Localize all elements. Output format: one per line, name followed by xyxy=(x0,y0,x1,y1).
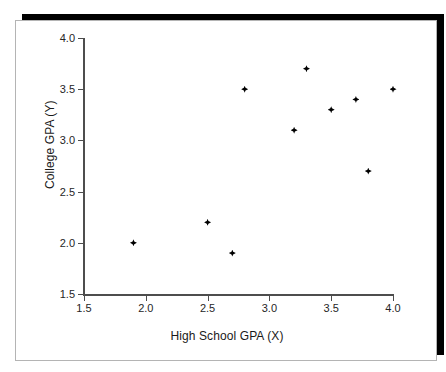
y-tick-mark xyxy=(78,294,84,295)
data-point xyxy=(352,96,359,103)
x-tick-mark xyxy=(331,296,332,301)
x-tick-mark xyxy=(269,296,270,301)
x-tick-label: 1.5 xyxy=(76,302,91,314)
data-point xyxy=(130,239,137,246)
y-tick-mark xyxy=(78,38,84,39)
scatter-plot-figure: 1.52.02.53.03.54.0 1.52.02.53.03.54.0 Co… xyxy=(15,20,437,361)
y-axis-title: College GPA (Y) xyxy=(43,100,57,189)
x-tick-mark xyxy=(84,296,85,301)
x-tick-label: 3.5 xyxy=(324,302,339,314)
x-tick-mark xyxy=(208,296,209,301)
x-tick-label: 2.0 xyxy=(138,302,153,314)
y-tick-label: 3.5 xyxy=(60,83,75,95)
x-tick-mark xyxy=(393,296,394,301)
y-tick-mark xyxy=(78,140,84,141)
data-point xyxy=(390,86,397,93)
y-tick-label: 3.0 xyxy=(60,134,75,146)
x-axis-title: High School GPA (X) xyxy=(16,329,438,343)
x-tick-label: 4.0 xyxy=(385,302,400,314)
y-tick-label: 1.5 xyxy=(60,288,75,300)
data-point xyxy=(204,219,211,226)
plot-area: 1.52.02.53.03.54.0 1.52.02.53.03.54.0 xyxy=(84,38,393,294)
x-axis-line xyxy=(83,294,394,296)
data-point xyxy=(328,106,335,113)
x-tick-mark xyxy=(146,296,147,301)
y-tick-mark xyxy=(78,243,84,244)
y-tick-label: 2.5 xyxy=(60,186,75,198)
data-point xyxy=(229,250,236,257)
y-tick-mark xyxy=(78,89,84,90)
data-point xyxy=(303,65,310,72)
y-tick-mark xyxy=(78,192,84,193)
y-tick-label: 2.0 xyxy=(60,237,75,249)
data-point xyxy=(365,168,372,175)
x-tick-label: 3.0 xyxy=(262,302,277,314)
x-tick-label: 2.5 xyxy=(200,302,215,314)
figure-wrapper: 1.52.02.53.03.54.0 1.52.02.53.03.54.0 Co… xyxy=(0,0,446,372)
y-axis-line xyxy=(83,38,85,295)
data-point xyxy=(291,127,298,134)
y-tick-label: 4.0 xyxy=(60,32,75,44)
data-point xyxy=(241,86,248,93)
